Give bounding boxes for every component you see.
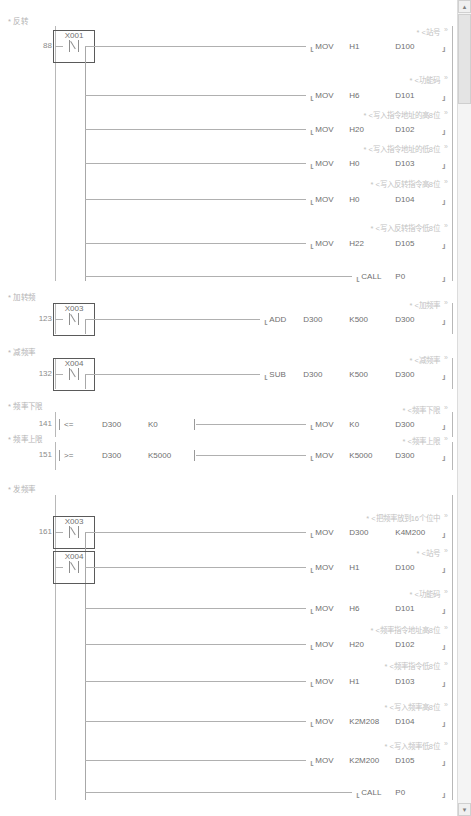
comment-expand-icon[interactable]: » [444,26,448,33]
instruction-opcode[interactable]: MOV [315,451,349,460]
comment-expand-icon[interactable]: » [444,222,448,229]
bracket-open: ⸤ [310,89,315,101]
instruction-operand[interactable]: D103 [395,677,441,686]
instruction-opcode[interactable]: MOV [315,717,349,726]
rung-wire [85,644,306,645]
instruction-operand[interactable]: D102 [395,125,441,134]
instruction-opcode[interactable]: MOV [315,91,349,100]
comment-expand-icon[interactable]: » [444,354,448,361]
rung-comment: * <写入反转指令高8位 [0,178,440,189]
comment-expand-icon[interactable]: » [444,74,448,81]
instruction-operand[interactable]: D300 [395,420,441,429]
instruction-operand[interactable]: P0 [395,272,441,281]
instruction-operand[interactable]: P0 [395,788,441,797]
instruction-operand[interactable]: D300 [303,370,349,379]
instruction-operand[interactable]: K5000 [349,451,395,460]
scroll-thumb[interactable] [458,14,471,104]
instruction-operand[interactable]: H20 [349,125,395,134]
bracket-open: ⸤ [310,237,315,249]
instruction-operand[interactable]: D300 [395,315,441,324]
instruction-operand[interactable]: D104 [395,717,441,726]
instruction-opcode[interactable]: MOV [315,640,349,649]
instruction-operand[interactable]: H22 [349,239,395,248]
bracket-open: ⸤ [310,675,315,687]
instruction-operand[interactable]: D100 [395,42,441,51]
instruction-operand[interactable]: K500 [349,315,395,324]
comment-expand-icon[interactable]: » [444,740,448,747]
comment-expand-icon[interactable]: » [444,660,448,667]
instruction-operand[interactable]: D300 [303,315,349,324]
instruction-opcode[interactable]: MOV [315,420,349,429]
instruction-operand[interactable]: K2M208 [349,717,395,726]
instruction-opcode[interactable]: CALL [361,272,395,281]
instruction-opcode[interactable]: MOV [315,195,349,204]
rung-comment: * <频率指令低8位 [0,660,440,671]
comment-expand-icon[interactable]: » [444,512,448,519]
instruction-opcode[interactable]: MOV [315,563,349,572]
comment-expand-icon[interactable]: » [444,701,448,708]
instruction-operand[interactable]: D103 [395,159,441,168]
instruction-opcode[interactable]: SUB [269,370,303,379]
bracket-close: ⸥ [441,89,446,101]
instruction-operand[interactable]: K500 [349,370,395,379]
rung-wire [85,276,352,277]
instruction-operand[interactable]: H1 [349,563,395,572]
instruction-operand[interactable]: D104 [395,195,441,204]
comment-expand-icon[interactable]: » [444,178,448,185]
instruction-operand[interactable]: H0 [349,159,395,168]
instruction-opcode[interactable]: MOV [315,756,349,765]
comment-expand-icon[interactable]: » [444,299,448,306]
instruction-operand[interactable]: D105 [395,239,441,248]
comment-expand-icon[interactable]: » [444,143,448,150]
instruction-operand[interactable]: D102 [395,640,441,649]
scroll-up-button[interactable]: ▴ [458,0,471,13]
instruction-opcode[interactable]: MOV [315,604,349,613]
vertical-scrollbar[interactable]: ▴ ▾ [457,0,471,816]
instruction-operand[interactable]: K2M200 [349,756,395,765]
instruction-operand[interactable]: K4M200 [395,528,441,537]
instruction-operand[interactable]: D105 [395,756,441,765]
rung-comment: * <频率上限 [0,435,440,446]
instruction-operand[interactable]: H6 [349,604,395,613]
bracket-open: ⸤ [310,715,315,727]
comment-expand-icon[interactable]: » [444,547,448,554]
comment-expand-icon[interactable]: » [444,624,448,631]
instruction-operand[interactable]: H0 [349,195,395,204]
bracket-close: ⸥ [441,638,446,650]
bracket-close: ⸥ [441,715,446,727]
bracket-close: ⸥ [441,602,446,614]
instruction-operand[interactable]: H20 [349,640,395,649]
instruction-opcode[interactable]: CALL [361,788,395,797]
comment-expand-icon[interactable]: » [444,588,448,595]
comment-expand-icon[interactable]: » [444,109,448,116]
instruction-operand[interactable]: D300 [395,370,441,379]
instruction-operand[interactable]: H1 [349,677,395,686]
bracket-open: ⸤ [310,754,315,766]
comment-expand-icon[interactable]: » [444,404,448,411]
rung-comment: * <写入指令地址的高8位 [0,109,440,120]
instruction-opcode[interactable]: MOV [315,239,349,248]
instruction-operand[interactable]: H1 [349,42,395,51]
instruction-operand[interactable]: H6 [349,91,395,100]
bracket-open: ⸤ [264,368,269,380]
scroll-down-button[interactable]: ▾ [458,803,471,816]
instruction-opcode[interactable]: MOV [315,528,349,537]
rung-wire [85,760,306,761]
instruction-operand[interactable]: D101 [395,91,441,100]
bracket-close: ⸥ [441,193,446,205]
rung-comment: * <站号 [0,547,440,558]
rung-wire [85,199,306,200]
section-title-reverse: * 反转 [8,15,28,26]
instruction-operand[interactable]: D100 [395,563,441,572]
instruction-opcode[interactable]: MOV [315,42,349,51]
instruction-operand[interactable]: D101 [395,604,441,613]
comment-expand-icon[interactable]: » [444,435,448,442]
instruction-operand[interactable]: D300 [349,528,395,537]
instruction-operand[interactable]: K0 [349,420,395,429]
instruction-opcode[interactable]: MOV [315,677,349,686]
instruction-opcode[interactable]: MOV [315,159,349,168]
instruction-opcode[interactable]: MOV [315,125,349,134]
instruction-opcode[interactable]: ADD [269,315,303,324]
instruction-operand[interactable]: D300 [395,451,441,460]
bracket-close: ⸥ [441,368,446,380]
